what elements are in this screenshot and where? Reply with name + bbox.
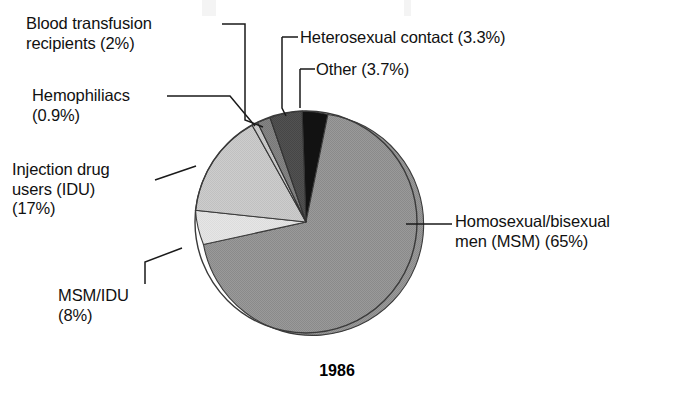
leader-line-msm-idu xyxy=(145,248,182,284)
leader-line-heterosexual xyxy=(282,37,298,116)
leader-line-other xyxy=(300,69,315,108)
chart-year-caption: 1986 xyxy=(0,362,674,380)
label-msm: Homosexual/bisexual men (MSM) (65%) xyxy=(455,212,674,251)
label-other: Other (3.7%) xyxy=(316,60,556,80)
label-hemophiliacs: Hemophiliacs (0.9%) xyxy=(32,86,242,125)
label-msm-idu: MSM/IDU (8%) xyxy=(58,286,238,325)
label-heterosexual-contact: Heterosexual contact (3.3%) xyxy=(300,28,630,48)
label-blood-transfusion: Blood transfusion recipients (2%) xyxy=(26,14,256,53)
label-injection-drug-users: Injection drug users (IDU) (17%) xyxy=(12,160,212,219)
pie-chart-figure: Blood transfusion recipients (2%) Hemoph… xyxy=(0,0,674,414)
